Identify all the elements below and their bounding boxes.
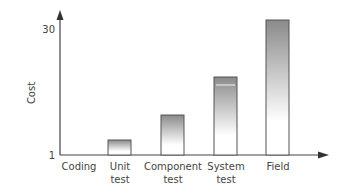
x-label-component-test: test: [163, 174, 182, 185]
bars: [108, 20, 289, 155]
y-axis-label: Cost: [26, 82, 37, 104]
x-label-unit-test: test: [110, 174, 129, 185]
x-label-coding: Coding: [62, 161, 97, 172]
x-label-system: System: [207, 161, 244, 172]
x-axis-arrow-icon: [318, 152, 329, 159]
bar-field: [266, 20, 289, 155]
x-label-unit: Unit: [110, 161, 130, 172]
bar-system-test: [214, 77, 237, 155]
x-label-field: Field: [266, 161, 289, 172]
y-tick-1: 1: [49, 150, 55, 161]
bar-component-test: [161, 115, 184, 155]
y-tick-30: 30: [42, 24, 55, 35]
bar-chart: Cost 30 1 Coding Unit test Component tes…: [0, 0, 352, 193]
x-tick-labels: Coding Unit test Component test System t…: [62, 161, 290, 185]
y-axis-arrow-icon: [57, 10, 64, 20]
x-label-system-test: test: [216, 174, 235, 185]
y-axis: [57, 10, 64, 155]
bar-unit-test: [108, 140, 131, 155]
x-label-component: Component: [144, 161, 202, 172]
